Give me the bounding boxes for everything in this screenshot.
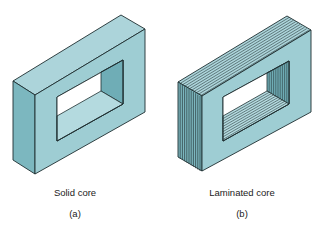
figure-a-sublabel: (a): [69, 208, 81, 219]
laminated-core-side-face: [178, 82, 202, 171]
figure-b-sublabel: (b): [236, 208, 248, 219]
figure-b-caption: Laminated core: [209, 187, 274, 198]
laminated-core: [178, 16, 311, 171]
solid-core-side-face: [13, 81, 35, 174]
figure-a-caption: Solid core: [54, 187, 96, 198]
transformer-core-diagram: Solid core (a) Laminated core (b): [0, 0, 322, 232]
solid-core: [13, 15, 145, 174]
